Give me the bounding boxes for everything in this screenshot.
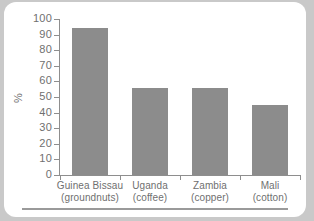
bar [192, 88, 228, 175]
bottom-rule [22, 208, 288, 210]
category-country: Mali [234, 180, 306, 192]
y-axis-line [59, 19, 60, 176]
figure: % 1009080706050403020100 Guinea Bissau(g… [0, 0, 314, 221]
y-axis-tick-label: 50 [0, 91, 52, 102]
y-axis-tick-label: 60 [0, 75, 52, 86]
y-axis-tick-label: 10 [0, 153, 52, 164]
y-axis-tick-label: 90 [0, 29, 52, 40]
y-axis-tick-label: 20 [0, 138, 52, 149]
bar [72, 28, 108, 175]
category-commodity: (cotton) [234, 192, 306, 204]
y-axis-tick-label: 100 [0, 13, 52, 24]
x-axis-category-label: Mali(cotton) [234, 180, 306, 204]
bar [132, 88, 168, 175]
y-axis-tick-label: 70 [0, 60, 52, 71]
y-axis-tick-label: 0 [0, 169, 52, 180]
bar [252, 105, 288, 175]
y-axis-tick-label: 80 [0, 44, 52, 55]
bar-chart: % 1009080706050403020100 Guinea Bissau(g… [0, 0, 314, 221]
y-axis-tick-label: 30 [0, 122, 52, 133]
y-axis-tick-label: 40 [0, 107, 52, 118]
